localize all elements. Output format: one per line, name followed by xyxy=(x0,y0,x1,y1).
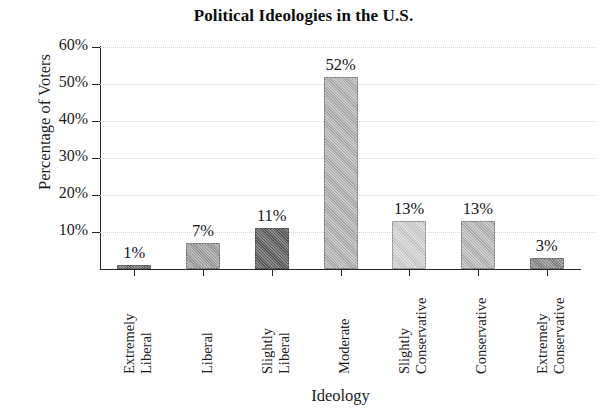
category-label-line: Liberal xyxy=(138,332,155,374)
category-label-line: Slightly xyxy=(259,328,276,374)
x-axis-tick xyxy=(134,270,135,276)
category-label-line: Slightly xyxy=(396,328,413,374)
y-axis-tick-label: 60% xyxy=(36,36,88,54)
bar-value-label: 13% xyxy=(443,199,513,219)
x-axis-tick xyxy=(478,270,479,276)
bar xyxy=(324,77,358,269)
x-axis-tick xyxy=(409,270,410,276)
y-axis-tick-label: 30% xyxy=(36,147,88,165)
bar-value-label: 11% xyxy=(237,206,307,226)
bar-value-label: 3% xyxy=(512,236,582,256)
x-axis-tick xyxy=(203,270,204,276)
bar xyxy=(117,265,151,269)
bar-value-label: 52% xyxy=(306,55,376,75)
bar xyxy=(186,243,220,269)
bar xyxy=(255,228,289,269)
y-axis-tick-label: 20% xyxy=(36,184,88,202)
bar-value-label: 1% xyxy=(99,243,169,263)
y-axis-tick-label: 10% xyxy=(36,221,88,239)
y-axis-tick-label: 40% xyxy=(36,110,88,128)
category-label-line: Liberal xyxy=(199,332,216,374)
category-label-line: Conservative xyxy=(551,297,568,374)
category-label-line: Moderate xyxy=(336,318,353,374)
gridline xyxy=(100,47,596,48)
bar-value-label: 13% xyxy=(374,199,444,219)
bar xyxy=(530,258,564,269)
x-axis-title: Ideology xyxy=(100,386,581,406)
category-label-line: Conservative xyxy=(473,297,490,374)
category-label-line: Liberal xyxy=(276,332,293,374)
category-label-line: Conservative xyxy=(413,297,430,374)
bar xyxy=(461,221,495,269)
category-label-line: Extremely xyxy=(534,314,551,374)
x-axis-tick xyxy=(341,270,342,276)
chart-title: Political Ideologies in the U.S. xyxy=(0,6,607,26)
x-axis-tick xyxy=(547,270,548,276)
bar-value-label: 7% xyxy=(168,221,238,241)
category-label-line: Extremely xyxy=(121,314,138,374)
bar xyxy=(392,221,426,269)
y-axis-tick-label: 50% xyxy=(36,73,88,91)
bar-chart: Political Ideologies in the U.S. Percent… xyxy=(0,0,607,416)
x-axis-tick xyxy=(272,270,273,276)
